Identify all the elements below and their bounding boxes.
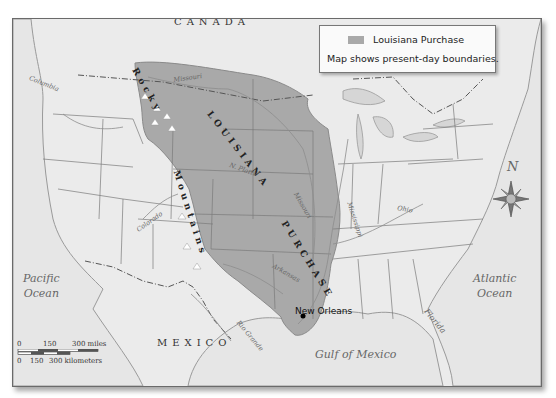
legend-swatch-label: Louisiana Purchase — [373, 34, 464, 45]
label-atlantic-ocean: Atlantic Ocean — [473, 271, 516, 301]
label-atlantic-line2: Ocean — [473, 286, 516, 301]
mexico-us-border — [85, 261, 231, 339]
great-lakes — [343, 89, 465, 159]
scale-bar: 0 150 300 miles 0 150 300 kilometers — [17, 340, 127, 366]
label-pacific-line2: Ocean — [23, 286, 60, 301]
compass-north-label: N — [507, 159, 518, 174]
label-new-orleans: New Orleans — [295, 306, 352, 316]
legend-note: Map shows present-day boundaries. — [327, 53, 499, 64]
scale-miles-0: 0 — [17, 340, 21, 348]
scale-bar-graphic — [17, 349, 107, 355]
label-canada: CANADA — [174, 18, 250, 27]
scale-km-0: 0 — [17, 357, 21, 365]
scale-miles-labels: 0 150 300 miles — [17, 340, 127, 349]
map-frame: Louisiana Purchase Map shows present-day… — [12, 18, 542, 387]
scale-km-labels: 0 150 300 kilometers — [17, 357, 127, 366]
label-atlantic-line1: Atlantic — [473, 271, 516, 286]
scale-miles-150: 150 — [43, 340, 56, 348]
label-pacific-line1: Pacific — [23, 271, 60, 286]
map-canvas — [13, 19, 541, 386]
legend-swatch — [348, 36, 364, 44]
label-pacific-ocean: Pacific Ocean — [23, 271, 60, 301]
label-mexico: MEXICO — [157, 337, 231, 348]
legend-entry-louisiana-purchase: Louisiana Purchase — [348, 34, 464, 45]
label-gulf-of-mexico: Gulf of Mexico — [315, 347, 396, 362]
scale-miles-300: 300 miles — [72, 340, 106, 348]
scale-km-150: 150 — [30, 357, 43, 365]
map-legend: Louisiana Purchase Map shows present-day… — [319, 25, 496, 73]
scale-km-300: 300 kilometers — [49, 357, 102, 365]
louisiana-purchase-region — [135, 62, 340, 335]
